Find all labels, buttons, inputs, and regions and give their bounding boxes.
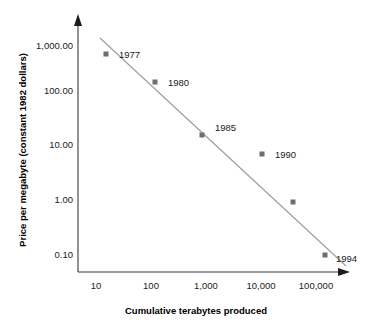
point-label-1977: 1977 [119, 49, 140, 60]
x-tick-label: 1,000 [194, 280, 218, 291]
scatter-chart: 1,000.00 100.00 10.00 1.00 0.10 10 100 1… [0, 0, 372, 326]
trend-line [100, 38, 346, 266]
point-label-1980: 1980 [168, 77, 189, 88]
x-axis-title: Cumulative terabytes produced [125, 305, 267, 316]
x-tick-label: 100 [143, 280, 159, 291]
y-tick-label: 0.10 [55, 249, 74, 260]
point-label-1985: 1985 [215, 122, 236, 133]
data-point-marker [153, 80, 158, 85]
chart-page: 1,000.00 100.00 10.00 1.00 0.10 10 100 1… [0, 0, 372, 326]
data-point-marker [200, 133, 205, 138]
x-tick-label: 100,000 [299, 280, 333, 291]
y-tick-label: 1,000.00 [36, 40, 73, 51]
data-point-marker [260, 152, 265, 157]
y-axis-title: Price per megabyte (constant 1982 dollar… [17, 53, 28, 247]
point-label-1994: 1994 [336, 253, 357, 264]
point-label-1990: 1990 [275, 149, 296, 160]
data-point-marker [104, 52, 109, 57]
y-axis-arrow-icon [74, 14, 82, 26]
x-axis-arrow-icon [338, 268, 350, 276]
data-point-marker [323, 253, 328, 258]
y-tick-label: 100.00 [44, 85, 73, 96]
data-point-marker [291, 200, 296, 205]
y-tick-label: 10.00 [49, 139, 73, 150]
x-tick-label: 10 [91, 280, 102, 291]
y-tick-label: 1.00 [55, 194, 74, 205]
x-tick-label: 10,000 [246, 280, 275, 291]
